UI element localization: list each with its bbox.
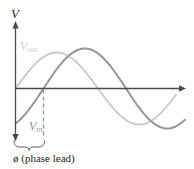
vout-label-sub: out: [27, 45, 38, 54]
phase-lead-label: ø (phase lead): [13, 152, 75, 165]
y-axis-down-arrowhead-icon: [12, 134, 18, 142]
figure-canvas: V Vout Vin ø (phase lead): [0, 0, 194, 169]
y-axis-up-arrowhead-icon: [12, 21, 18, 29]
vout-label: Vout: [20, 39, 38, 54]
y-axis-label: V: [11, 6, 21, 21]
x-axis-arrowhead-icon: [179, 85, 186, 91]
phase-lead-figure: V Vout Vin ø (phase lead): [0, 0, 194, 169]
vin-label: Vin: [29, 119, 43, 134]
vin-label-sub: in: [36, 125, 42, 134]
phase-brace: [14, 141, 45, 151]
